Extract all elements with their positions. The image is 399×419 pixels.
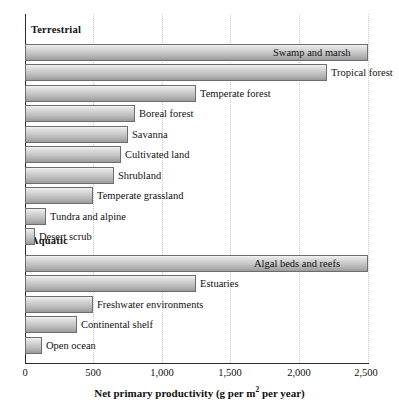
bar-temperate-forest[interactable] bbox=[25, 85, 196, 102]
bar-label: Shrubland bbox=[118, 168, 161, 183]
x-tick-0: 0 bbox=[22, 367, 27, 378]
bar-open-ocean[interactable] bbox=[25, 337, 42, 354]
bar-temperate-grassland[interactable] bbox=[25, 187, 93, 204]
bar-shrubland[interactable] bbox=[25, 167, 114, 184]
x-axis-title: Net primary productivity (g per m2 per y… bbox=[0, 385, 399, 399]
npp-bar-chart: Terrestrial Aquatic Swamp and marsh Trop… bbox=[0, 0, 399, 419]
bar-desert-scrub[interactable] bbox=[25, 228, 35, 245]
bar-savanna[interactable] bbox=[25, 126, 128, 143]
x-tick-1500: 1,500 bbox=[218, 367, 242, 378]
bar-label: Cultivated land bbox=[125, 147, 189, 162]
bar-continental-shelf[interactable] bbox=[25, 316, 77, 333]
bar-label: Algal beds and reefs bbox=[254, 256, 340, 271]
bar-estuaries[interactable] bbox=[25, 275, 196, 292]
bar-label: Boreal forest bbox=[139, 106, 194, 121]
bar-label: Temperate grassland bbox=[97, 188, 183, 203]
x-axis-line bbox=[25, 363, 369, 364]
x-axis-title-tail: per year) bbox=[259, 387, 305, 399]
bar-label: Savanna bbox=[132, 127, 168, 142]
bar-cultivated-land[interactable] bbox=[25, 146, 121, 163]
bar-label: Freshwater environments bbox=[97, 297, 203, 312]
bar-label: Continental shelf bbox=[81, 317, 153, 332]
bar-boreal-forest[interactable] bbox=[25, 105, 135, 122]
bar-freshwater-environments[interactable] bbox=[25, 296, 93, 313]
bar-label: Tundra and alpine bbox=[50, 209, 126, 224]
x-tick-2500: 2,500 bbox=[354, 367, 378, 378]
x-tick-1000: 1,000 bbox=[150, 367, 174, 378]
section-heading-terrestrial: Terrestrial bbox=[31, 24, 81, 35]
bar-label: Estuaries bbox=[200, 276, 239, 291]
bar-label: Tropical forest bbox=[331, 65, 393, 80]
bar-label: Swamp and marsh bbox=[273, 45, 351, 60]
bar-label: Temperate forest bbox=[200, 86, 271, 101]
bar-label: Open ocean bbox=[46, 338, 96, 353]
x-axis-title-main: Net primary productivity (g per m bbox=[94, 387, 255, 399]
bar-tundra-and-alpine[interactable] bbox=[25, 208, 46, 225]
x-tick-500: 500 bbox=[85, 367, 101, 378]
bar-label: Desert scrub bbox=[39, 229, 92, 244]
x-tick-2000: 2,000 bbox=[287, 367, 311, 378]
bar-tropical-forest[interactable] bbox=[25, 64, 327, 81]
